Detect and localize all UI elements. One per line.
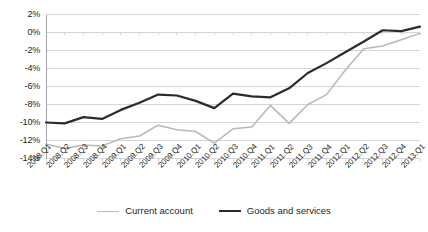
legend-item-goods-and-services[interactable]: Goods and services xyxy=(219,206,331,216)
gridlines xyxy=(46,15,420,159)
y-axis-tick-label: -8% xyxy=(0,100,40,109)
chart-container: 2%0%-2%-4%-6%-8%-10%-12%-14% 2008.Q12008… xyxy=(0,0,428,232)
legend-line-swatch-icon xyxy=(97,211,119,212)
series-line-1 xyxy=(46,27,420,124)
legend-label: Goods and services xyxy=(247,206,331,216)
y-axis-tick-label: -2% xyxy=(0,46,40,55)
legend-item-current-account[interactable]: Current account xyxy=(97,206,193,216)
chart-plot-area xyxy=(0,0,428,232)
y-axis-tick-label: -10% xyxy=(0,118,40,127)
legend-label: Current account xyxy=(125,206,193,216)
legend-line-swatch-icon xyxy=(219,210,241,212)
y-axis-tick-label: -4% xyxy=(0,64,40,73)
y-axis-tick-label: 0% xyxy=(0,28,40,37)
data-series xyxy=(46,27,420,149)
y-axis-tick-label: -12% xyxy=(0,136,40,145)
y-axis-tick-label: 2% xyxy=(0,10,40,19)
y-axis-tick-label: -6% xyxy=(0,82,40,91)
chart-legend: Current account Goods and services xyxy=(0,206,428,216)
